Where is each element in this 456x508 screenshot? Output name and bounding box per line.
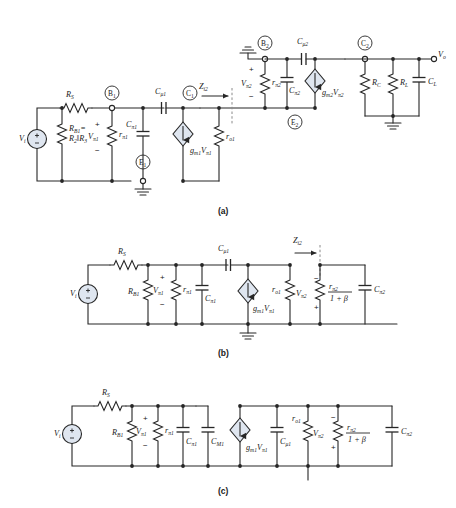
dependent-source-gm1-c: gm1Vπ1 (230, 404, 268, 468)
capacitor-cpi2-a: Cπ2 (281, 57, 301, 110)
node-b2-a: B2 (258, 36, 272, 62)
vpi2-plus-c: + (331, 443, 336, 452)
vpi1-annotation-b: + Vπ1 − (153, 273, 165, 309)
capacitor-cpi1-a: Cπ1 (126, 106, 150, 183)
ground-output-a (385, 116, 401, 129)
figure-small-signal-two-stage-amplifier: Vi RS RB1= R2‖R3 (0, 0, 456, 508)
node-c2-text-a: C2 (361, 39, 369, 49)
rs-label-a: RS (65, 90, 74, 100)
node-c1-text-a: C1 (186, 89, 194, 99)
cmu1-label-c: Cμ1 (280, 437, 291, 447)
vpi1-minus-a: − (95, 146, 100, 155)
rb1-label-c: RB1 (111, 428, 123, 438)
vpi2-plus-b: + (314, 303, 319, 312)
wire-vi-top-c (72, 406, 94, 425)
cm1-label-c: CM1 (211, 437, 224, 447)
vpi2-minus-c: − (331, 413, 336, 422)
vpi2-label-a: Vπ2 (241, 79, 252, 89)
resistor-ro1-b: ro1 (272, 263, 295, 326)
vpi1-annotation-c: + Vπ1 − (136, 414, 148, 450)
panel-a-caption: (a) (218, 206, 229, 216)
rpi1-label-b: rπ1 (183, 285, 192, 295)
vpi1-plus-b: + (160, 273, 165, 282)
resistor-rpi2-a: rπ2 (261, 62, 281, 110)
vpi2-annotation-c: − Vπ2 + (313, 413, 336, 452)
capacitor-cm1-c: CM1 (202, 406, 225, 468)
cl-label-a: CL (428, 77, 437, 87)
dependent-source-gm2-a: gm2Vπ2 (305, 57, 344, 110)
wire-bottom-rail-c (72, 444, 392, 467)
rb1-label-line1-a: RB1= (68, 124, 86, 134)
node-e2-text-a: E2 (291, 118, 299, 128)
panel-a: Vi RS RB1= R2‖R3 (19, 36, 446, 216)
capacitor-cl-a: CL (413, 57, 437, 116)
node-b1-a: B1 (105, 86, 119, 111)
ro1-label-a: ro1 (226, 132, 235, 142)
resistor-rpi2-over-beta-c: rπ2 1 + β (334, 404, 371, 468)
dependent-source-gm1-b: gm1Vπ1 (238, 263, 275, 326)
zi2-label-b: Zi2 (293, 236, 302, 246)
wire-vi-bottom-a (37, 149, 131, 182)
vpi2-minus-a: − (249, 92, 254, 101)
resistor-rb1-c: RB1 (111, 404, 137, 468)
vi-label-b: Vi (70, 289, 77, 299)
node-e2-a: E2 (288, 115, 302, 129)
node-b2-text-a: B2 (261, 39, 269, 49)
frac-numerator-b: rπ2 (329, 282, 338, 292)
resistor-rpi1-c: rπ1 (154, 404, 174, 468)
cpi2-label-a: Cπ2 (289, 86, 300, 96)
vpi1-plus-c: + (143, 414, 148, 423)
cmu1-label-a: Cμ1 (155, 87, 166, 97)
resistor-rs-c: RS (94, 388, 126, 411)
resistor-rb1-b: RB1 (127, 263, 153, 326)
vpi1-minus-b: − (160, 300, 165, 309)
resistor-rpi2-over-beta-b: rπ2 1 + β (316, 263, 353, 326)
panel-b: Vi RS RB1 rπ1 (70, 236, 397, 358)
voltage-source-vi-a: Vi (19, 130, 47, 149)
wire-vi-top-a (37, 108, 60, 130)
node-b1-text-a: B1 (108, 89, 116, 99)
capacitor-cpi1-c: Cπ1 (177, 404, 198, 468)
zi2-label-a: Zi2 (199, 82, 208, 92)
resistor-rc-a: RC (361, 62, 382, 116)
zi2-annotation-a: Zi2 (199, 82, 232, 124)
vpi2-annotation-a: + Vπ2 − (241, 65, 254, 101)
frac-numerator-c: rπ2 (347, 423, 356, 433)
resistor-rpi1-a: rπ1 (108, 111, 128, 183)
rpi1-label-a: rπ1 (119, 130, 128, 140)
resistor-rb1-a: RB1= R2‖R3 (58, 106, 88, 183)
capacitor-cpi2-c: Cπ2 (386, 406, 413, 466)
cpi2-label-c: Cπ2 (401, 427, 412, 437)
capacitor-cpi1-b: Cπ1 (196, 263, 217, 326)
rpi1-label-c: rπ1 (165, 426, 174, 436)
frac-denominator-b: 1 + β (330, 294, 349, 303)
gm2-label-a: gm2Vπ2 (322, 88, 344, 98)
rpi2-label-a: rπ2 (272, 78, 281, 88)
vpi1-plus-a: + (95, 120, 100, 129)
zi2-annotation-b: Zi2 (293, 236, 320, 277)
rc-label-a: RC (371, 78, 381, 88)
resistor-rl-a: RL (389, 57, 409, 118)
rs-label-c: RS (101, 388, 110, 398)
vi-label-c: Vi (54, 429, 61, 439)
vo-label-a: Vo (438, 50, 446, 60)
node-e1-text-a: E1 (139, 158, 147, 168)
ro1-label-c: ro1 (292, 414, 301, 424)
rb1-label-b: RB1 (127, 287, 139, 297)
voltage-source-vi-c: Vi (54, 425, 82, 444)
wire-bottom-rail-b (88, 304, 397, 325)
cpi1-label-a: Cπ1 (126, 120, 137, 130)
panel-c: Vi RS RB1 rπ1 (54, 388, 412, 496)
capacitor-cpi2-b: Cπ2 (359, 265, 386, 324)
vpi1-label-c: Vπ1 (136, 427, 147, 437)
resistor-rpi1-b: rπ1 (172, 263, 192, 326)
panel-c-caption: (c) (218, 486, 229, 496)
vpi1-label-b: Vπ1 (153, 286, 164, 296)
output-terminal-vo-a: Vo (431, 50, 446, 62)
rb1-label-line2-a: R2‖R3 (68, 134, 87, 144)
cmu2-label-a: Cμ2 (297, 37, 308, 47)
vpi1-label-a: Vπ1 (88, 132, 99, 142)
cpi1-label-b: Cπ1 (205, 294, 216, 304)
wire-vi-top-b (88, 265, 110, 285)
voltage-source-vi-b: Vi (70, 285, 98, 304)
